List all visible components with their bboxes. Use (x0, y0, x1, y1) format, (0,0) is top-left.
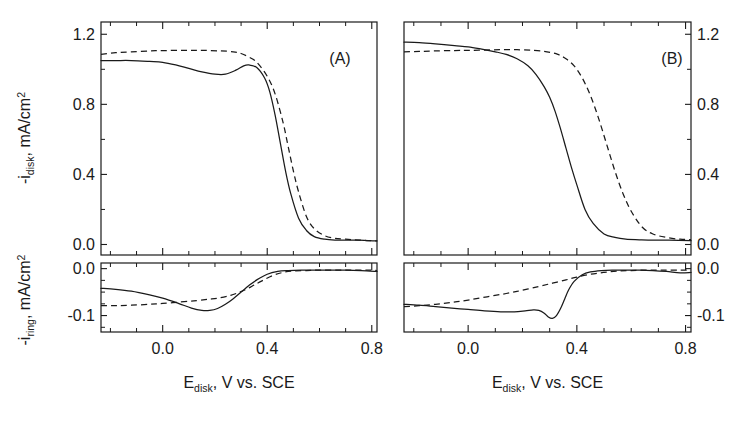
y-tick-label: 0.8 (73, 96, 95, 113)
curve-disk-solid (101, 60, 377, 241)
plot-frame-ring (101, 263, 377, 332)
y-tick-label: 0.0 (73, 260, 95, 277)
x-tick-label: 0.4 (566, 340, 588, 357)
panel-b (404, 22, 691, 332)
panel-label: (A) (329, 50, 350, 67)
curve-ring-dashed (101, 270, 377, 306)
curve-ring-solid (404, 270, 691, 318)
y-tick-label: 0.0 (697, 260, 719, 277)
y-tick-label: 0.8 (697, 96, 719, 113)
panel-label: (B) (661, 50, 682, 67)
rrde-voltammogram-figure: 0.00.40.81.20.0-0.10.00.40.8(A)Edisk, V … (0, 0, 743, 425)
x-tick-label: 0.0 (152, 340, 174, 357)
y-tick-label: 0.0 (697, 236, 719, 253)
y-axis-title-ring: -iring, mA/cm2 (15, 254, 36, 345)
y-tick-label: 0.4 (73, 166, 95, 183)
plot-frame-ring (404, 263, 691, 332)
x-tick-label: 0.8 (674, 340, 696, 357)
x-tick-label: 0.0 (457, 340, 479, 357)
x-tick-label: 0.4 (256, 340, 278, 357)
figure-container: 0.00.40.81.20.0-0.10.00.40.8(A)Edisk, V … (0, 0, 743, 425)
y-tick-label: 0.4 (697, 166, 719, 183)
y-axis-title-disk: -idisk, mA/cm2 (15, 92, 36, 184)
y-tick-label: 1.2 (697, 26, 719, 43)
curve-ring-dashed (404, 270, 691, 307)
x-tick-label: 0.8 (361, 340, 383, 357)
y-tick-label: 1.2 (73, 26, 95, 43)
curve-disk-dashed (101, 50, 377, 241)
panel-a (101, 22, 377, 332)
curve-disk-solid (404, 42, 691, 240)
y-tick-label: -0.1 (697, 307, 725, 324)
x-axis-title: Edisk, V vs. SCE (492, 374, 603, 394)
x-axis-title: Edisk, V vs. SCE (183, 374, 294, 394)
curve-disk-dashed (404, 50, 691, 240)
plot-frame-disk (404, 22, 691, 255)
y-tick-label: 0.0 (73, 236, 95, 253)
y-tick-label: -0.1 (67, 307, 95, 324)
